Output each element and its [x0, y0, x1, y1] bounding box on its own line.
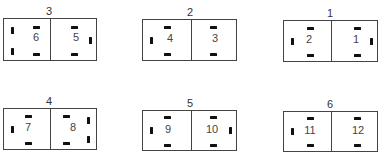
unit-label: 3 — [39, 6, 59, 17]
horizontal-pin-icon — [63, 115, 70, 118]
vertical-pin-icon — [291, 38, 294, 45]
connector-box: 21 — [283, 20, 378, 62]
horizontal-pin-icon — [164, 53, 171, 56]
horizontal-pin-icon — [63, 142, 70, 145]
cell-number: 7 — [18, 122, 38, 133]
horizontal-pin-icon — [33, 53, 40, 56]
horizontal-pin-icon — [307, 27, 314, 30]
horizontal-pin-icon — [25, 115, 32, 118]
horizontal-pin-icon — [164, 144, 171, 147]
connector-box: 1112 — [283, 111, 378, 152]
box-divider — [191, 111, 192, 150]
vertical-pin-icon — [87, 136, 90, 143]
horizontal-pin-icon — [210, 53, 217, 56]
connector-box: 910 — [142, 110, 237, 151]
vertical-pin-icon — [229, 127, 232, 134]
vertical-pin-icon — [11, 27, 14, 34]
vertical-pin-icon — [150, 127, 153, 134]
cell-number: 3 — [205, 33, 225, 44]
horizontal-pin-icon — [210, 144, 217, 147]
connector-box: 65 — [3, 18, 97, 61]
horizontal-pin-icon — [71, 26, 78, 29]
box-divider — [331, 21, 332, 61]
horizontal-pin-icon — [307, 144, 314, 147]
horizontal-pin-icon — [210, 116, 217, 119]
box-divider — [50, 19, 51, 60]
unit-label: 1 — [320, 8, 340, 19]
vertical-pin-icon — [370, 38, 373, 45]
cell-number: 2 — [299, 34, 319, 45]
horizontal-pin-icon — [307, 117, 314, 120]
horizontal-pin-icon — [354, 54, 361, 57]
horizontal-pin-icon — [354, 27, 361, 30]
box-divider — [50, 109, 51, 149]
box-divider — [331, 112, 332, 151]
unit-label: 4 — [39, 96, 59, 107]
vertical-pin-icon — [150, 37, 153, 44]
unit-label: 6 — [320, 99, 340, 110]
horizontal-pin-icon — [71, 53, 78, 56]
cell-number: 6 — [26, 32, 46, 43]
box-divider — [191, 20, 192, 60]
horizontal-pin-icon — [307, 54, 314, 57]
horizontal-pin-icon — [210, 26, 217, 29]
unit-label: 5 — [180, 98, 200, 109]
vertical-pin-icon — [291, 128, 294, 135]
horizontal-pin-icon — [164, 116, 171, 119]
horizontal-pin-icon — [164, 26, 171, 29]
cell-number: 8 — [63, 122, 83, 133]
horizontal-pin-icon — [354, 144, 361, 147]
connector-box: 78 — [3, 108, 97, 150]
vertical-pin-icon — [11, 126, 14, 133]
cell-number: 12 — [348, 125, 368, 136]
cell-number: 4 — [160, 33, 180, 44]
horizontal-pin-icon — [33, 26, 40, 29]
horizontal-pin-icon — [25, 142, 32, 145]
cell-number: 10 — [202, 124, 222, 135]
vertical-pin-icon — [87, 117, 90, 124]
cell-number: 9 — [158, 124, 178, 135]
horizontal-pin-icon — [354, 117, 361, 120]
unit-label: 2 — [180, 7, 200, 18]
cell-number: 5 — [66, 32, 86, 43]
cell-number: 1 — [346, 34, 366, 45]
vertical-pin-icon — [89, 37, 92, 44]
vertical-pin-icon — [11, 48, 14, 55]
cell-number: 11 — [300, 125, 320, 136]
connector-box: 43 — [142, 19, 237, 61]
